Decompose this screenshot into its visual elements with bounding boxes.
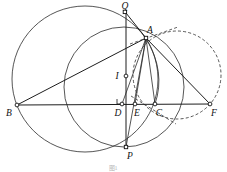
point-marker-B <box>15 103 19 107</box>
point-label-A: A <box>146 25 153 35</box>
arc-through-A-and-C <box>146 38 159 104</box>
segments-group <box>17 13 210 147</box>
segment-B-A <box>17 38 146 105</box>
point-labels-group: Q A I B D E C F P <box>6 1 217 161</box>
medium-circle <box>64 27 184 147</box>
segment-A-P <box>126 38 146 147</box>
point-label-B: B <box>6 108 12 118</box>
geometry-figure: Q A I B D E C F P 图1 <box>0 0 227 172</box>
point-markers-group <box>15 10 212 149</box>
figure-caption: 图1 <box>109 165 118 172</box>
point-label-D: D <box>114 108 122 118</box>
point-label-Q: Q <box>122 1 129 11</box>
point-marker-A <box>144 36 147 39</box>
segment-A-F <box>146 38 210 104</box>
arcs-group <box>146 38 159 104</box>
point-marker-D <box>120 102 124 106</box>
geometry-canvas: Q A I B D E C F P 图1 <box>0 0 227 172</box>
point-marker-E <box>133 102 137 106</box>
point-marker-P <box>124 145 127 148</box>
point-label-P: P <box>126 151 133 161</box>
point-label-I: I <box>114 71 119 81</box>
point-label-E: E <box>133 108 140 118</box>
segment-A-C <box>146 38 155 104</box>
point-marker-C <box>153 102 157 106</box>
point-marker-I <box>124 74 128 78</box>
point-label-C: C <box>156 108 163 118</box>
segment-Q-A <box>126 13 146 38</box>
point-label-F: F <box>210 108 217 118</box>
point-marker-F <box>208 102 212 106</box>
